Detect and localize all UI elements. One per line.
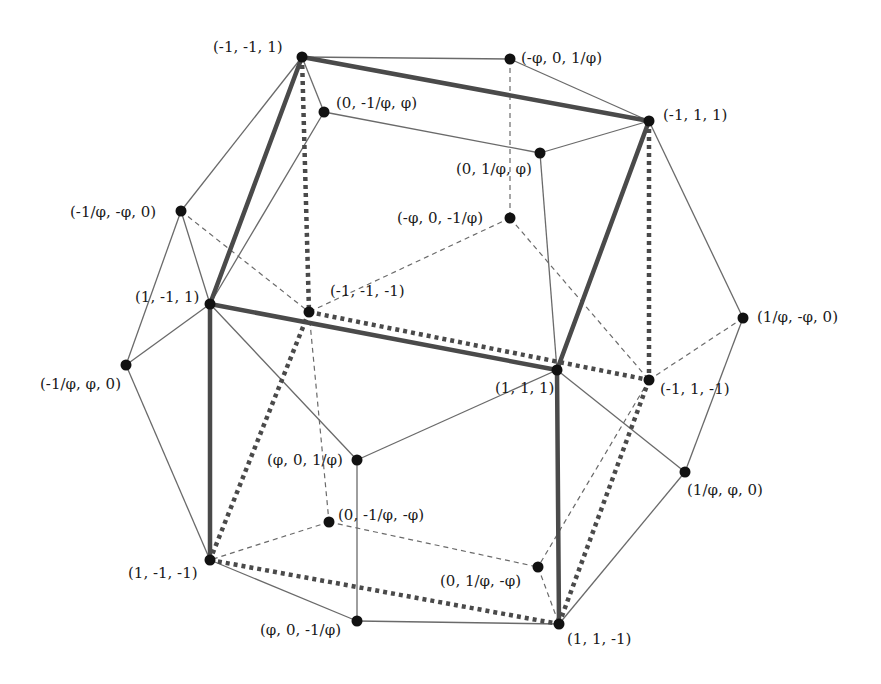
vertex-dot: [680, 467, 691, 478]
vertex-dot: [176, 206, 187, 217]
dodecahedron-cube-diagram: (-1, -1, 1)(-φ, 0, 1/φ)(0, -1/φ, φ)(-1, …: [0, 0, 881, 684]
vertex-label: (0, -1/φ, φ): [336, 96, 417, 111]
vertex-label: (-1/φ, φ, 0): [40, 377, 121, 392]
vertex-label: (φ, 0, -1/φ): [260, 623, 341, 638]
vertex-label: (-1/φ, -φ, 0): [70, 205, 156, 220]
vertex-dot: [205, 299, 216, 310]
vertex-dot: [533, 562, 544, 573]
vertex-label: (-1, 1, 1): [663, 108, 727, 123]
vertex-dot: [535, 148, 546, 159]
vertex-dot: [352, 616, 363, 627]
visible-edge: [302, 57, 510, 59]
vertex-dot: [205, 555, 216, 566]
cube-visible-edge: [557, 370, 559, 624]
vertex-label: (1, 1, -1): [567, 632, 631, 647]
visible-edge: [540, 121, 649, 153]
vertex-label: (0, -1/φ, -φ): [338, 508, 424, 523]
vertex-dot: [324, 517, 335, 528]
cube-hidden-edge: [210, 312, 309, 560]
hidden-edge: [329, 522, 538, 567]
vertex-dot: [644, 116, 655, 127]
hidden-edge: [181, 211, 309, 312]
hidden-edge: [538, 567, 559, 624]
visible-edge: [126, 304, 210, 365]
cube-visible-edge: [557, 121, 649, 370]
visible-edge: [510, 59, 649, 121]
vertex-dot: [121, 360, 132, 371]
visible-edge: [181, 57, 302, 211]
vertex-label: (1, 1, 1): [495, 381, 554, 396]
hidden-edge: [538, 380, 649, 567]
vertex-dot: [644, 375, 655, 386]
visible-edge: [540, 153, 557, 370]
visible-edge: [324, 112, 540, 153]
vertex-label: (-1, -1, 1): [213, 40, 283, 55]
visible-edge: [302, 57, 324, 112]
vertex-dot: [352, 455, 363, 466]
hidden-edge: [309, 312, 329, 522]
hidden-edge: [210, 522, 329, 560]
vertex-label: (0, 1/φ, -φ): [440, 574, 521, 589]
vertex-label: (φ, 0, 1/φ): [267, 453, 343, 468]
hidden-edge: [649, 318, 743, 380]
visible-edge: [649, 121, 743, 318]
vertex-dot: [505, 213, 516, 224]
visible-edge: [126, 365, 210, 560]
vertex-label: (1/φ, φ, 0): [687, 483, 763, 498]
vertex-dot: [738, 313, 749, 324]
cube-hidden-edge: [210, 560, 559, 624]
vertex-label: (1, -1, -1): [128, 566, 198, 581]
vertex-label: (-φ, 0, -1/φ): [397, 211, 483, 226]
cube-hidden-edge: [309, 312, 649, 380]
vertex-label: (1, -1, 1): [135, 290, 199, 305]
vertex-label: (-1, -1, -1): [330, 284, 405, 299]
cube-visible-edge: [210, 57, 302, 304]
vertex-label: (0, 1/φ, φ): [456, 162, 532, 177]
vertex-dot: [297, 52, 308, 63]
vertex-dot: [319, 107, 330, 118]
vertex-dot: [505, 54, 516, 65]
vertex-label: (1/φ, -φ, 0): [757, 310, 838, 325]
cube-hidden-edge: [559, 380, 649, 624]
vertex-dot: [552, 365, 563, 376]
vertex-label: (-1, 1, -1): [660, 382, 730, 397]
vertex-label: (-φ, 0, 1/φ): [521, 51, 602, 66]
vertex-dot: [554, 619, 565, 630]
visible-edge: [559, 472, 685, 624]
visible-edge: [357, 621, 559, 624]
vertex-dot: [304, 307, 315, 318]
visible-edge: [210, 560, 357, 621]
cube-hidden-edge: [302, 57, 309, 312]
